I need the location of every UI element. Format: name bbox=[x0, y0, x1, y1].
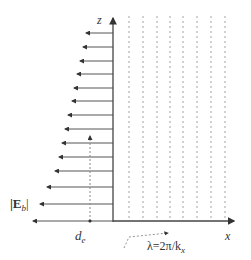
skin-depth-label: de bbox=[75, 228, 86, 245]
field-magnitude-label: |Eb| bbox=[10, 196, 29, 213]
z-axis-label: z bbox=[96, 13, 102, 27]
field-arrows bbox=[33, 33, 113, 221]
x-axis-label: x bbox=[224, 229, 231, 243]
wavelength-label: λ=2π/kx bbox=[147, 239, 185, 255]
wavefront-lines bbox=[129, 16, 225, 219]
skin-depth-dot bbox=[88, 219, 91, 222]
electric-field-diagram: z x |Eb| de λ=2π/kx bbox=[0, 0, 251, 260]
